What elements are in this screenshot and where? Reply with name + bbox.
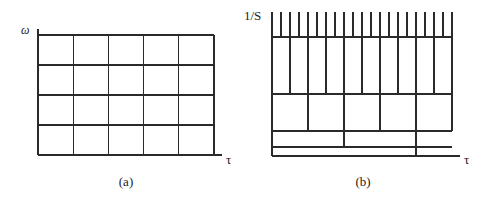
caption-b: (b) — [355, 174, 370, 189]
x-axis-label-b: τ — [464, 152, 469, 167]
figure: ω τ (a) 1/S τ (b) — [0, 0, 491, 199]
caption-a: (a) — [119, 174, 133, 189]
panel-b — [272, 12, 460, 156]
y-axis-label-b: 1/S — [244, 8, 261, 23]
y-axis-label-a: ω — [21, 23, 29, 37]
panel-a — [38, 29, 222, 155]
x-axis-label-a: τ — [226, 152, 231, 167]
